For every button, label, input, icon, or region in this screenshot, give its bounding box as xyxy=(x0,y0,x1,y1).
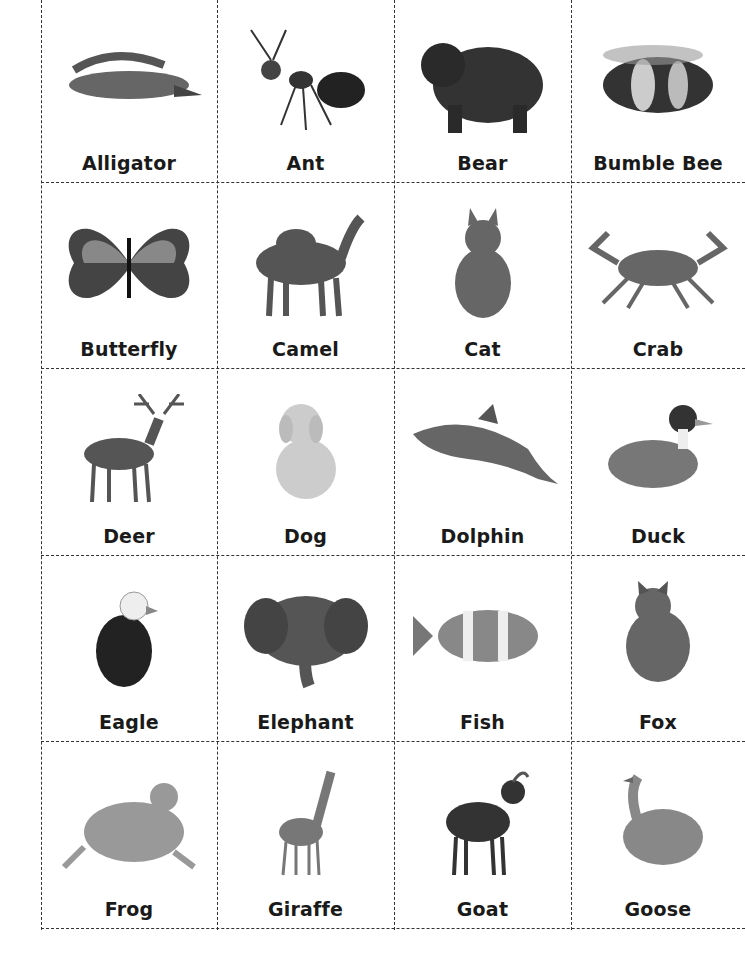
animal-label: Eagle xyxy=(41,711,217,733)
animal-card: Duck xyxy=(571,369,745,555)
animal-label: Frog xyxy=(41,898,217,920)
animal-card: Deer xyxy=(41,369,217,555)
animal-card: Dolphin xyxy=(394,369,571,555)
animal-card: Bumble Bee xyxy=(571,0,745,182)
bear-image xyxy=(408,20,558,140)
duck-image xyxy=(583,389,733,509)
alligator-image xyxy=(54,20,204,140)
animal-card: Fish xyxy=(394,556,571,741)
deer-image xyxy=(54,389,204,509)
animal-card: Cat xyxy=(394,183,571,368)
grid-line xyxy=(41,928,745,929)
animal-label: Deer xyxy=(41,525,217,547)
fox-image xyxy=(583,576,733,696)
animal-label: Camel xyxy=(217,338,394,360)
goose-image xyxy=(583,762,733,882)
goat-image xyxy=(408,762,558,882)
cat-image xyxy=(408,203,558,323)
animal-card: Goose xyxy=(571,742,745,928)
animal-card: Fox xyxy=(571,556,745,741)
animal-card: Dog xyxy=(217,369,394,555)
animal-card: Goat xyxy=(394,742,571,928)
animal-label: Crab xyxy=(571,338,745,360)
animal-card: Elephant xyxy=(217,556,394,741)
animal-label: Alligator xyxy=(41,152,217,174)
elephant-image xyxy=(231,576,381,696)
butterfly-image xyxy=(54,203,204,323)
animal-label: Goat xyxy=(394,898,571,920)
animal-label: Giraffe xyxy=(217,898,394,920)
animal-card: Giraffe xyxy=(217,742,394,928)
camel-image xyxy=(231,203,381,323)
animal-label: Bumble Bee xyxy=(571,152,745,174)
animal-label: Dog xyxy=(217,525,394,547)
animal-label: Fox xyxy=(571,711,745,733)
animal-card: Bear xyxy=(394,0,571,182)
dog-image xyxy=(231,389,381,509)
animal-label: Goose xyxy=(571,898,745,920)
animal-label: Cat xyxy=(394,338,571,360)
crab-image xyxy=(583,203,733,323)
animal-label: Bear xyxy=(394,152,571,174)
animal-card: Crab xyxy=(571,183,745,368)
fish-image xyxy=(408,576,558,696)
animal-card: Camel xyxy=(217,183,394,368)
dolphin-image xyxy=(408,389,558,509)
animal-card: Butterfly xyxy=(41,183,217,368)
animal-label: Fish xyxy=(394,711,571,733)
bumble-bee-image xyxy=(583,20,733,140)
frog-image xyxy=(54,762,204,882)
animal-card: Alligator xyxy=(41,0,217,182)
ant-image xyxy=(231,20,381,140)
animal-label: Dolphin xyxy=(394,525,571,547)
eagle-image xyxy=(54,576,204,696)
animal-card: Eagle xyxy=(41,556,217,741)
animal-label: Butterfly xyxy=(41,338,217,360)
animal-label: Ant xyxy=(217,152,394,174)
animal-label: Elephant xyxy=(217,711,394,733)
giraffe-image xyxy=(231,762,381,882)
animal-card: Ant xyxy=(217,0,394,182)
animal-card: Frog xyxy=(41,742,217,928)
animal-label: Duck xyxy=(571,525,745,547)
